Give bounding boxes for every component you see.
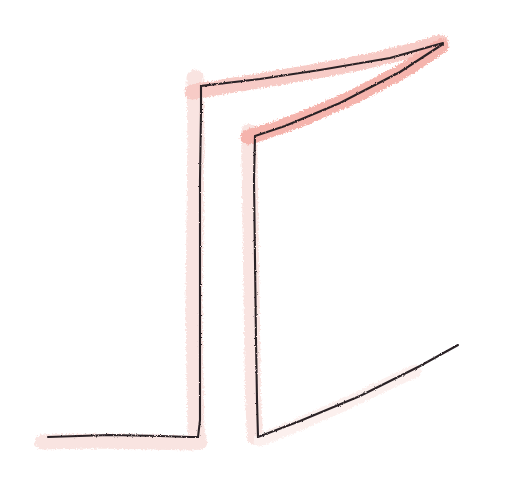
sketch-canvas [0,0,508,486]
sketch-drawing [0,0,508,486]
highlight-bottom-left-horizontal [42,441,200,443]
highlight-left-vertical [194,78,198,440]
